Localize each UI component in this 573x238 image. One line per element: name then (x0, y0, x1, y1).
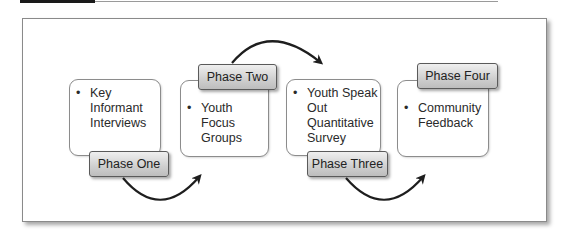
phase-two-box: Youth Focus Groups (180, 80, 269, 157)
line: Key (90, 86, 112, 100)
line: Groups (201, 131, 242, 145)
phase-three-item: Youth Speak Out Quantitative Survey (287, 86, 380, 146)
phase-four-label: Phase Four (417, 63, 498, 89)
line: Interviews (90, 116, 146, 130)
phase-one-box: Key Informant Interviews (69, 79, 161, 156)
phase-four-item: Community Feedback (398, 101, 488, 131)
line: Quantitative (307, 116, 374, 130)
line: Out (307, 101, 327, 115)
line: Community (418, 101, 481, 115)
phase-one-label: Phase One (89, 151, 169, 177)
phase-two-label: Phase Two (198, 64, 277, 90)
phase-four-box: Community Feedback (397, 80, 489, 157)
header-rule (95, 1, 498, 2)
phase-three-box: Youth Speak Out Quantitative Survey (286, 79, 381, 156)
phase-three-label: Phase Three (307, 151, 388, 177)
phase-two-item: Youth Focus Groups (181, 101, 268, 146)
phase-one-item: Key Informant Interviews (70, 86, 160, 131)
line: Feedback (418, 116, 473, 130)
line: Survey (307, 131, 346, 145)
line: Informant (90, 101, 143, 115)
header-bar-accent (20, 0, 95, 3)
line: Youth Speak (307, 86, 377, 100)
line: Youth Focus (201, 101, 235, 130)
